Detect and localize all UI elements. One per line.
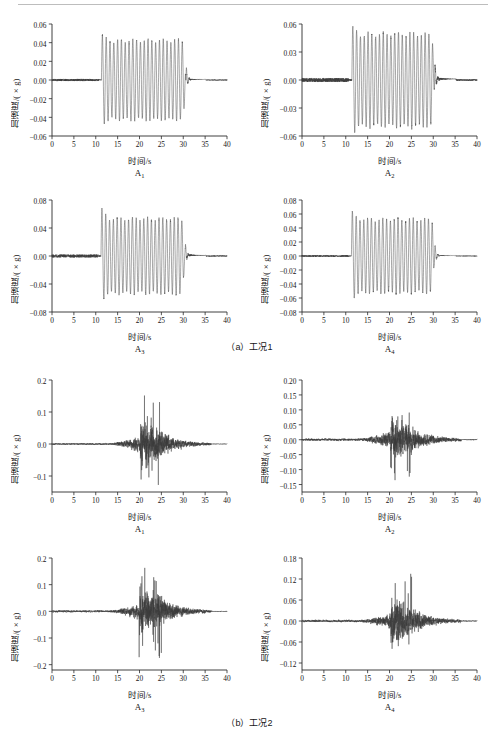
- x-tick-label: 10: [342, 496, 350, 505]
- plot-area-a1: −0.10.00.10.20510152025303540: [8, 370, 241, 532]
- plot-panel-a3-group-2: 加速度/(×g)时间/sA3−0.2−0.10.00.10.2051015202…: [8, 548, 241, 710]
- x-tick-label: 5: [72, 496, 76, 505]
- x-tick-label: 20: [136, 674, 144, 683]
- y-tick-label: 0.04: [34, 225, 47, 234]
- plot-area-a3: −0.2−0.10.00.10.20510152025303540: [8, 548, 241, 710]
- acceleration-trace: [52, 396, 227, 485]
- x-tick-label: 40: [223, 496, 231, 505]
- x-tick-label: 20: [136, 496, 144, 505]
- y-tick-label: 0.20: [284, 377, 297, 386]
- acceleration-trace: [302, 574, 477, 649]
- x-tick-label: 20: [136, 316, 144, 325]
- x-tick-label: 15: [114, 140, 122, 149]
- x-tick-label: 30: [430, 496, 438, 505]
- x-tick-label: 35: [451, 496, 459, 505]
- y-tick-label: 0.1: [37, 409, 47, 418]
- y-tick-label: −0.04: [29, 115, 46, 124]
- plot-area-a1: −0.06−0.04−0.020.000.020.040.06051015202…: [8, 14, 241, 176]
- x-tick-label: 15: [114, 674, 122, 683]
- x-tick-label: 40: [473, 496, 481, 505]
- group-caption-2: （b）工况2: [0, 716, 499, 729]
- x-tick-label: 35: [451, 674, 459, 683]
- x-tick-label: 15: [364, 316, 372, 325]
- x-tick-label: 40: [473, 674, 481, 683]
- acceleration-trace: [52, 34, 227, 124]
- x-tick-label: 5: [322, 140, 326, 149]
- x-tick-label: 30: [180, 496, 188, 505]
- x-tick-label: 40: [223, 140, 231, 149]
- x-tick-label: 40: [223, 316, 231, 325]
- y-tick-label: 0.0: [37, 609, 47, 618]
- plot-panel-a4-group-1: 加速度/(×g)时间/sA4−0.08−0.06−0.04−0.020.000.…: [258, 190, 491, 352]
- acceleration-trace: [302, 26, 477, 133]
- y-tick-label: 0.1: [37, 582, 47, 591]
- x-tick-label: 5: [322, 316, 326, 325]
- acceleration-trace: [52, 208, 227, 299]
- group-caption-1: （a）工况1: [0, 340, 499, 353]
- x-tick-label: 5: [72, 674, 76, 683]
- figure-page: 加速度/(×g)时间/sA1−0.06−0.04−0.020.000.020.0…: [0, 0, 499, 744]
- x-tick-label: 20: [136, 140, 144, 149]
- acceleration-trace: [302, 413, 477, 481]
- y-tick-label: 0.18: [284, 555, 297, 564]
- x-tick-label: 20: [386, 496, 394, 505]
- x-tick-label: 0: [300, 140, 304, 149]
- y-tick-label: 0.15: [284, 392, 297, 401]
- x-tick-label: 0: [50, 496, 54, 505]
- y-tick-label: −0.04: [29, 281, 46, 290]
- plot-panel-a1-group-2: 加速度/(×g)时间/sA1−0.10.00.10.20510152025303…: [8, 370, 241, 532]
- plot-area-a4: −0.12−0.060.000.060.120.1805101520253035…: [258, 548, 491, 710]
- x-tick-label: 35: [201, 496, 209, 505]
- x-tick-label: 10: [342, 140, 350, 149]
- y-tick-label: 0.06: [284, 21, 297, 30]
- x-tick-label: 25: [158, 496, 166, 505]
- x-tick-label: 30: [430, 674, 438, 683]
- x-tick-label: 25: [158, 140, 166, 149]
- x-tick-label: 10: [342, 674, 350, 683]
- y-tick-label: 0.06: [284, 597, 297, 606]
- x-tick-label: 0: [50, 674, 54, 683]
- y-tick-label: 0.2: [37, 377, 47, 386]
- plot-area-a3: −0.08−0.040.000.040.080510152025303540: [8, 190, 241, 352]
- x-tick-label: 20: [386, 316, 394, 325]
- x-tick-label: 0: [300, 496, 304, 505]
- x-tick-label: 5: [72, 140, 76, 149]
- y-tick-label: 0.00: [34, 253, 47, 262]
- x-tick-label: 15: [364, 496, 372, 505]
- x-tick-label: 10: [92, 496, 100, 505]
- y-tick-label: 0.00: [284, 77, 297, 86]
- y-tick-label: 0.03: [284, 49, 297, 58]
- plot-panel-a4-group-2: 加速度/(×g)时间/sA4−0.12−0.060.000.060.120.18…: [258, 548, 491, 710]
- acceleration-trace: [52, 568, 227, 658]
- x-tick-label: 20: [386, 140, 394, 149]
- x-tick-label: 0: [300, 316, 304, 325]
- y-tick-label: 0.0: [37, 441, 47, 450]
- x-tick-label: 0: [300, 674, 304, 683]
- y-tick-label: −0.1: [33, 473, 47, 482]
- plot-panel-a1-group-1: 加速度/(×g)时间/sA1−0.06−0.04−0.020.000.020.0…: [8, 14, 241, 176]
- y-tick-label: −0.15: [279, 482, 296, 491]
- x-tick-label: 25: [158, 674, 166, 683]
- y-tick-label: −0.10: [279, 467, 296, 476]
- y-tick-label: 0.02: [34, 59, 47, 68]
- y-tick-label: 0.2: [37, 555, 47, 564]
- x-tick-label: 30: [180, 674, 188, 683]
- page-top-rule: [18, 4, 488, 5]
- y-tick-label: 0.12: [284, 576, 297, 585]
- x-tick-label: 0: [50, 316, 54, 325]
- x-tick-label: 25: [408, 674, 416, 683]
- x-tick-label: 5: [72, 316, 76, 325]
- y-tick-label: −0.06: [29, 133, 46, 142]
- acceleration-trace: [302, 211, 477, 298]
- x-tick-label: 40: [223, 674, 231, 683]
- y-tick-label: −0.04: [279, 281, 296, 290]
- y-tick-label: −0.03: [279, 105, 296, 114]
- y-tick-label: −0.02: [279, 267, 296, 276]
- y-tick-label: −0.06: [279, 295, 296, 304]
- y-tick-label: 0.05: [284, 422, 297, 431]
- x-tick-label: 5: [322, 496, 326, 505]
- y-tick-label: 0.00: [284, 437, 297, 446]
- plot-area-a4: −0.08−0.06−0.04−0.020.000.020.040.060.08…: [258, 190, 491, 352]
- x-tick-label: 40: [473, 140, 481, 149]
- x-tick-label: 10: [92, 140, 100, 149]
